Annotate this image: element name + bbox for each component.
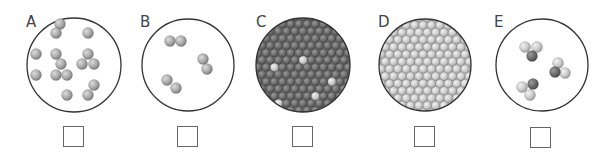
atom (254, 34, 262, 42)
atom (373, 43, 382, 52)
atom (457, 14, 466, 23)
atom (486, 94, 495, 103)
atom (361, 34, 369, 42)
atom (336, 20, 344, 28)
atom (198, 54, 209, 65)
atom (356, 42, 364, 50)
container-circle-e (496, 19, 588, 111)
atom (398, 14, 407, 23)
atom (520, 42, 531, 53)
atom (361, 78, 369, 86)
atom (356, 85, 364, 93)
atom (377, 94, 386, 103)
atom (474, 14, 483, 23)
lattice-d (373, 14, 495, 118)
atom (62, 70, 73, 81)
atom (31, 49, 42, 60)
panel-label-c: C (256, 13, 266, 31)
atom (165, 36, 176, 47)
atom (344, 34, 352, 42)
atom (352, 92, 360, 100)
panel-a: A (26, 13, 121, 112)
atom (482, 14, 491, 23)
atom (478, 79, 487, 88)
atom (440, 14, 449, 23)
atom (361, 92, 369, 100)
atom (344, 20, 352, 28)
atom (474, 87, 483, 96)
atom (486, 109, 495, 118)
atom (51, 28, 62, 39)
answer-box-d[interactable] (414, 126, 435, 147)
panel-e: E (494, 13, 588, 111)
atom (348, 27, 356, 35)
atom (344, 106, 352, 114)
atom (352, 63, 360, 71)
answer-box-e[interactable] (530, 127, 551, 148)
atom (461, 109, 470, 118)
atom (457, 101, 466, 110)
atom (482, 101, 491, 110)
atom (89, 59, 100, 70)
atom (348, 42, 356, 50)
atom (361, 49, 369, 57)
atom (332, 13, 340, 21)
atom (356, 56, 364, 64)
atom (51, 70, 62, 81)
atom (474, 28, 483, 37)
atom (419, 109, 428, 118)
atom (51, 49, 62, 60)
atom (258, 99, 266, 107)
atom (402, 109, 411, 118)
atom (340, 27, 348, 35)
atom (348, 85, 356, 93)
atom (478, 36, 487, 45)
atom (254, 106, 262, 114)
atom (344, 92, 352, 100)
atom (478, 65, 487, 74)
atom (482, 87, 491, 96)
atom (482, 28, 491, 37)
answer-box-c[interactable] (292, 126, 313, 147)
atom (176, 36, 187, 47)
atom (453, 109, 462, 118)
atom (162, 75, 173, 86)
atom (486, 36, 495, 45)
atom (474, 43, 483, 52)
atom (348, 13, 356, 21)
atom (385, 109, 394, 118)
atom (482, 58, 491, 67)
atom (274, 13, 282, 21)
atom (478, 21, 487, 30)
atom (356, 27, 364, 35)
answer-box-b[interactable] (177, 126, 198, 147)
answer-box-a[interactable] (63, 126, 84, 147)
atom (465, 87, 474, 96)
atom (250, 99, 258, 107)
atom (303, 106, 311, 114)
atom (356, 13, 364, 21)
atom (356, 70, 364, 78)
atom (486, 65, 495, 74)
atom (266, 13, 274, 21)
atom (390, 14, 399, 23)
atom (465, 101, 474, 110)
atom (336, 106, 344, 114)
atom (348, 99, 356, 107)
atom (77, 59, 88, 70)
atom (254, 92, 262, 100)
atom (324, 13, 332, 21)
atom (474, 58, 483, 67)
panel-label-d: D (378, 13, 390, 31)
atom (352, 34, 360, 42)
atom (266, 99, 274, 107)
atom (469, 94, 478, 103)
atom (56, 59, 67, 70)
atom (390, 101, 399, 110)
atom (250, 85, 258, 93)
atom (465, 14, 474, 23)
atom (373, 87, 382, 96)
atom (486, 50, 495, 59)
atom (202, 64, 213, 75)
atom (340, 99, 348, 107)
